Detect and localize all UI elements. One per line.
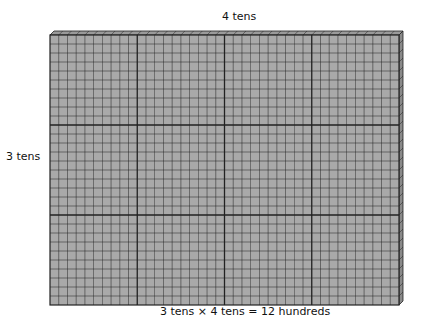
base-ten-block-grid [0,0,424,321]
